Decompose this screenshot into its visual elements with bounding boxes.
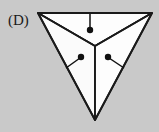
figure-panel: (D) bbox=[0, 0, 159, 132]
left-arrow-dot bbox=[78, 54, 84, 60]
right-arrow-dot bbox=[105, 54, 111, 60]
top-arrow-dot bbox=[87, 27, 93, 33]
triangle-diagram bbox=[0, 0, 159, 132]
